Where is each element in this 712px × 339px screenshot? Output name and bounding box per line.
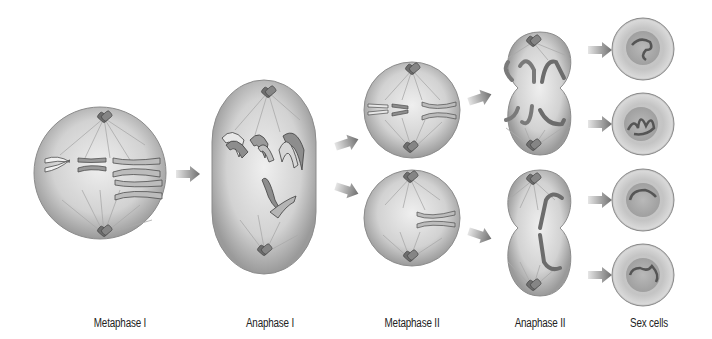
arrow-icon bbox=[588, 116, 612, 132]
anaphase-2-top-cell bbox=[506, 32, 571, 155]
metaphase-2-top-cell bbox=[364, 62, 460, 158]
arrow-icon bbox=[466, 224, 494, 247]
sex-cell-2 bbox=[612, 93, 674, 155]
metaphase-1-cell bbox=[34, 107, 166, 239]
sex-cell-1 bbox=[612, 18, 674, 80]
arrow-icon bbox=[588, 42, 612, 58]
arrow-icon bbox=[466, 87, 494, 110]
anaphase-2-bottom-cell bbox=[508, 170, 571, 296]
label-metaphase-1: Metaphase I bbox=[94, 316, 146, 330]
sex-cell-3 bbox=[612, 169, 674, 231]
sex-cell-4 bbox=[612, 244, 674, 306]
arrow-icon bbox=[588, 192, 612, 208]
arrow-icon bbox=[176, 166, 200, 182]
arrow-icon bbox=[588, 267, 612, 283]
label-anaphase-2: Anaphase II bbox=[515, 316, 566, 330]
meiosis-diagram bbox=[0, 0, 712, 339]
arrow-icon bbox=[333, 179, 361, 202]
label-sex-cells: Sex cells bbox=[630, 316, 668, 330]
label-metaphase-2: Metaphase II bbox=[385, 316, 440, 330]
arrow-icon bbox=[333, 132, 361, 155]
metaphase-2-bottom-cell bbox=[364, 170, 460, 266]
label-anaphase-1: Anaphase I bbox=[246, 316, 294, 330]
anaphase-1-cell bbox=[212, 80, 316, 274]
